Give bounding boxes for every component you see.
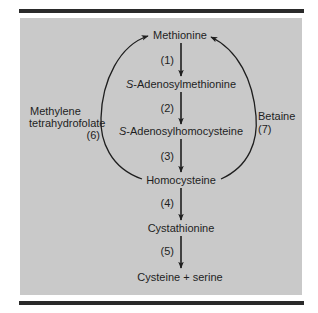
node-sah-label: -Adenosylhomocysteine: [126, 125, 243, 137]
pathway-diagram: Methionine S-Adenosylmethionine S-Adenos…: [0, 0, 318, 313]
label-tetrahydrofolate: tetrahydrofolate: [29, 117, 105, 129]
step-label-2: (2): [161, 102, 174, 114]
node-cystathionine: Cystathionine: [148, 222, 215, 234]
node-sam-label: -Adenosylmethionine: [133, 78, 236, 90]
node-cysteine-serine: Cysteine + serine: [137, 271, 222, 283]
node-s-adenosylhomocysteine: S-Adenosylhomocysteine: [119, 125, 243, 137]
node-homocysteine: Homocysteine: [146, 174, 216, 186]
step-label-3: (3): [161, 150, 174, 162]
step-label-1: (1): [161, 54, 174, 66]
step-label-6: (6): [87, 129, 100, 141]
arc-remethylation-left: [101, 36, 148, 179]
node-s-adenosylmethionine: S-Adenosylmethionine: [126, 78, 236, 90]
label-betaine: Betaine: [258, 110, 295, 122]
arc-remethylation-right: [211, 37, 256, 179]
step-label-5: (5): [161, 245, 174, 257]
node-methionine: Methionine: [153, 29, 207, 41]
step-label-7: (7): [258, 123, 271, 135]
label-methylene: Methylene: [30, 105, 81, 117]
step-label-4: (4): [161, 197, 174, 209]
